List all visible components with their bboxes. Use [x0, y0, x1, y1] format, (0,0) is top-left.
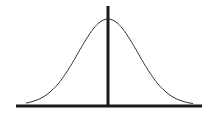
normal-distribution-diagram — [0, 0, 210, 113]
